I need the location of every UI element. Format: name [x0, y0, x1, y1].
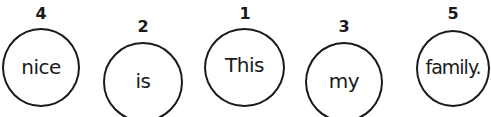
- order-number: 1: [230, 6, 260, 22]
- word-label: family.: [426, 56, 481, 78]
- order-number: 5: [438, 6, 468, 22]
- word-order-exercise: 4 nice 2 is 1 This 3 my 5 family.: [0, 0, 491, 117]
- word-circle: This: [204, 28, 285, 107]
- word-label: my: [329, 69, 359, 93]
- order-number: 2: [128, 19, 158, 35]
- order-number: 4: [26, 6, 56, 22]
- word-label: nice: [21, 55, 61, 79]
- word-label: This: [225, 53, 264, 77]
- word-circle: my: [305, 42, 383, 117]
- word-circle: is: [103, 42, 183, 117]
- word-circle: nice: [2, 28, 80, 107]
- word-label: is: [136, 69, 151, 93]
- word-circle: family.: [416, 30, 490, 107]
- order-number: 3: [329, 19, 359, 35]
